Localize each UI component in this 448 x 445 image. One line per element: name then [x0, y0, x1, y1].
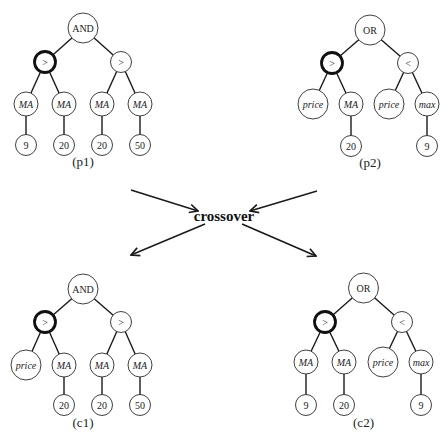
tree-p2-node-or: OR — [355, 15, 385, 45]
node-label: < — [405, 58, 411, 69]
tree-c2-node-max: max — [409, 350, 433, 374]
tree-c1-node-price: price — [11, 350, 41, 380]
tree-c2-node-20: 20 — [334, 395, 355, 416]
node-label: > — [42, 57, 48, 68]
node-label: MA — [18, 99, 34, 110]
tree-c1-node-ma: MA — [90, 353, 114, 377]
tree-c2-caption: (c2) — [353, 415, 374, 430]
tree-c2-node-9: 9 — [411, 395, 432, 416]
captions-layer: (p1)(p2)(c1)(c2) — [72, 154, 381, 430]
tree-p1-node-ma: MA — [14, 92, 38, 116]
node-label: 20 — [59, 400, 69, 411]
arrow-from-p2 — [250, 191, 317, 211]
tree-p2-node-lt: < — [398, 53, 419, 74]
node-label: AND — [72, 23, 94, 34]
node-label: MA — [56, 360, 72, 371]
node-label: 50 — [135, 400, 145, 411]
tree-p1-node-20: 20 — [92, 135, 113, 156]
node-label: 20 — [346, 141, 356, 152]
tree-p1-node-9: 9 — [16, 135, 37, 156]
node-label: 20 — [59, 140, 69, 151]
node-label: 9 — [425, 141, 430, 152]
node-label: max — [413, 357, 430, 368]
arrow-to-c2 — [242, 224, 316, 256]
tree-p2-node-price: price — [298, 89, 328, 119]
tree-c1-node-gt: > — [111, 312, 132, 333]
node-label: price — [372, 357, 394, 368]
tree-c1-node-ma: MA — [52, 353, 76, 377]
tree-c1-node-20: 20 — [92, 395, 113, 416]
tree-p1-node-20: 20 — [54, 135, 75, 156]
node-label: > — [322, 317, 328, 328]
node-label: MA — [343, 99, 359, 110]
node-label: MA — [298, 357, 314, 368]
tree-p1-node-ma: MA — [52, 92, 76, 116]
node-label: > — [329, 58, 335, 69]
node-label: MA — [94, 99, 110, 110]
tree-c2-node-9: 9 — [296, 395, 317, 416]
node-label: MA — [336, 357, 352, 368]
node-label: 9 — [419, 400, 424, 411]
node-label: MA — [132, 99, 148, 110]
tree-p2-node-price: price — [374, 89, 404, 119]
tree-c2-node-or: OR — [349, 273, 379, 303]
node-label: price — [378, 99, 400, 110]
node-label: 9 — [24, 140, 29, 151]
node-label: price — [15, 360, 37, 371]
tree-c1-node-50: 50 — [130, 395, 151, 416]
node-label: < — [399, 317, 405, 328]
tree-p1-node-gt-highlighted: > — [35, 52, 56, 73]
node-label: OR — [363, 25, 377, 36]
arrow-to-c1 — [131, 224, 205, 255]
tree-c1-caption: (c1) — [73, 415, 94, 430]
node-label: 20 — [97, 140, 107, 151]
tree-p2-caption: (p2) — [359, 155, 381, 170]
tree-p2-node-max: max — [415, 92, 439, 116]
tree-p2-node-9: 9 — [417, 136, 438, 157]
tree-p1-caption: (p1) — [72, 154, 94, 169]
tree-c2-node-ma: MA — [332, 350, 356, 374]
node-label: 9 — [304, 400, 309, 411]
node-label: AND — [72, 284, 94, 295]
tree-p1-node-ma: MA — [90, 92, 114, 116]
tree-p1-node-50: 50 — [130, 135, 151, 156]
tree-c1-node-and: AND — [68, 274, 98, 304]
node-label: 20 — [339, 400, 349, 411]
tree-p2-node-ma: MA — [339, 92, 363, 116]
node-label: > — [118, 317, 124, 328]
tree-p2-node-20: 20 — [341, 136, 362, 157]
tree-c2-node-price: price — [368, 347, 398, 377]
node-label: MA — [94, 360, 110, 371]
node-label: > — [42, 317, 48, 328]
node-label: > — [118, 57, 124, 68]
tree-c2-node-ma: MA — [294, 350, 318, 374]
tree-c1-node-20: 20 — [54, 395, 75, 416]
tree-p1-node-gt: > — [111, 52, 132, 73]
node-label: max — [419, 99, 436, 110]
node-label: 20 — [97, 400, 107, 411]
tree-p1-node-ma: MA — [128, 92, 152, 116]
tree-c1-node-gt-highlighted: > — [35, 312, 56, 333]
node-label: MA — [56, 99, 72, 110]
node-label: 50 — [135, 140, 145, 151]
tree-c2-node-gt-highlighted: > — [315, 312, 336, 333]
crossover-diagram: AND>MA9MA20>MA20MA50OR>priceMA20<pricema… — [0, 0, 448, 445]
tree-c1-node-ma: MA — [128, 353, 152, 377]
arrow-from-p1 — [131, 190, 198, 211]
crossover-label: crossover — [194, 208, 255, 224]
node-label: MA — [132, 360, 148, 371]
node-label: OR — [357, 283, 371, 294]
tree-p2-node-gt-highlighted: > — [322, 53, 343, 74]
crossover-group: crossover — [131, 190, 317, 256]
node-label: price — [302, 99, 324, 110]
tree-p1-node-and: AND — [68, 13, 98, 43]
tree-c2-node-lt: < — [392, 312, 413, 333]
